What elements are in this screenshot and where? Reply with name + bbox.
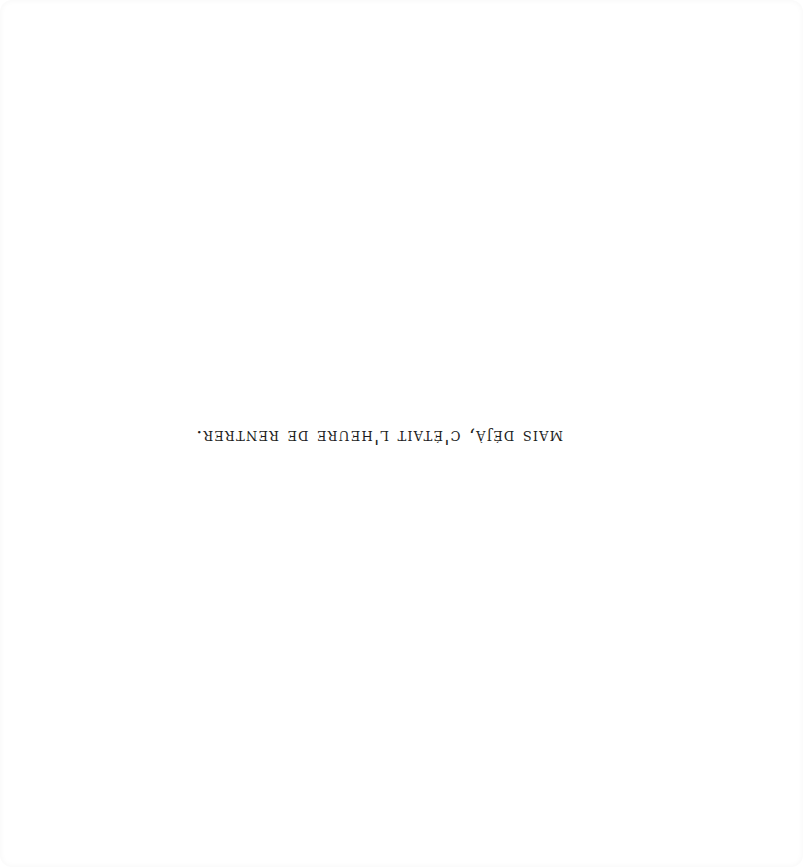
text-line: MAIS DÉJÀ, C'ÉTAIT L'HEURE DE RENTRER. <box>195 429 563 448</box>
book-page: MAIS DÉJÀ, C'ÉTAIT L'HEURE DE RENTRER. <box>0 0 803 867</box>
text-line-container: MAIS DÉJÀ, C'ÉTAIT L'HEURE DE RENTRER. <box>180 427 578 449</box>
